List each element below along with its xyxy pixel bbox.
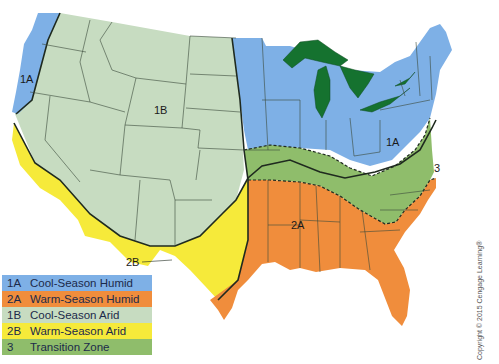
legend-item-1a: 1A Cool-Season Humid (2, 275, 152, 291)
legend-item-1b: 1B Cool-Season Arid (2, 307, 152, 323)
label-1b: 1B (154, 104, 167, 116)
legend-code: 1A (2, 275, 30, 291)
legend-label: Warm-Season Humid (30, 291, 152, 307)
legend-label: Transition Zone (30, 339, 152, 355)
legend: 1A Cool-Season Humid 2A Warm-Season Humi… (2, 275, 152, 355)
legend-item-3: 3 Transition Zone (2, 339, 152, 355)
legend-code: 3 (2, 339, 30, 355)
legend-label: Warm-Season Arid (30, 323, 152, 339)
label-1a-west: 1A (20, 73, 34, 85)
legend-code: 2A (2, 291, 30, 307)
legend-code: 2B (2, 323, 30, 339)
legend-label: Cool-Season Humid (30, 275, 152, 291)
region-1b-cool-season-arid (15, 13, 244, 246)
copyright-notice: Copyright © 2015 Cengage Learning® (476, 241, 483, 360)
label-2b: 2B (126, 256, 139, 268)
label-2a: 2A (291, 219, 305, 231)
legend-item-2a: 2A Warm-Season Humid (2, 291, 152, 307)
label-1a-east: 1A (386, 136, 400, 148)
label-3: 3 (434, 162, 440, 174)
legend-label: Cool-Season Arid (30, 307, 152, 323)
legend-code: 1B (2, 307, 30, 323)
legend-item-2b: 2B Warm-Season Arid (2, 323, 152, 339)
